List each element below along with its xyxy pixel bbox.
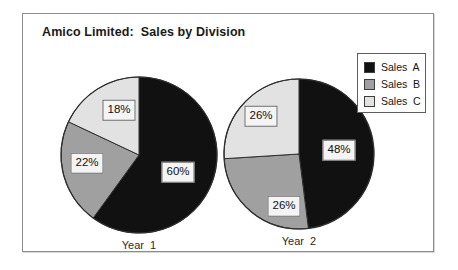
chart-frame: Amico Limited: Sales by Division 60%22%1… [22,13,434,252]
slice-percent-label: 48% [322,140,355,161]
legend-item[interactable]: Sales B [364,76,425,92]
legend-swatch-icon [364,96,375,107]
slice-percent-label: 26% [267,196,300,217]
legend-item-label: Sales B [381,78,420,90]
legend: Sales ASales BSales C [357,53,426,113]
pie-caption: Year 1 [122,239,156,251]
legend-item-label: Sales A [381,61,420,73]
slice-percent-label: 26% [244,106,277,127]
pie-caption: Year 2 [282,235,316,247]
pie-slice[interactable] [224,154,308,229]
slice-percent-label: 18% [102,100,135,121]
legend-item[interactable]: Sales A [364,59,425,75]
legend-item-label: Sales C [381,95,421,107]
slice-percent-label: 22% [70,153,103,174]
legend-swatch-icon [364,79,375,90]
slice-percent-label: 60% [161,162,194,183]
legend-swatch-icon [364,62,375,73]
chart-title: Amico Limited: Sales by Division [42,25,245,39]
legend-item[interactable]: Sales C [364,93,425,109]
